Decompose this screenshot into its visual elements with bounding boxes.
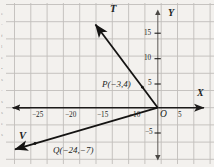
ray-T <box>96 25 158 108</box>
y-axis-label: Y <box>168 8 174 18</box>
point-Q-label: Q(−24,−7) <box>53 146 93 155</box>
y-axis <box>155 10 160 161</box>
y-tick-minus-5: −5 <box>145 129 153 136</box>
y-tick-10: 10 <box>144 55 151 62</box>
ray-T-label: T <box>110 4 116 15</box>
x-axis-label: X <box>197 88 204 98</box>
point-P-dot <box>141 86 144 89</box>
y-tick-15: 15 <box>144 30 151 37</box>
y-axis-arrow-up <box>155 10 160 16</box>
x-tick-minus-25: −25 <box>32 112 43 119</box>
coordinate-plane-figure: e - f l e • s - s s e s <box>0 0 214 167</box>
ray-V-label: V <box>19 131 26 142</box>
x-tick-5: 5 <box>178 112 182 119</box>
x-tick-minus-15: −15 <box>97 112 108 119</box>
x-tick-minus-20: −20 <box>65 112 76 119</box>
point-P-label: P(−3,4) <box>102 80 131 89</box>
y-tick-5: 5 <box>148 80 152 87</box>
point-Q-dot <box>34 142 37 145</box>
x-tick-minus-10: −10 <box>129 112 140 119</box>
origin-label: O <box>160 110 167 120</box>
